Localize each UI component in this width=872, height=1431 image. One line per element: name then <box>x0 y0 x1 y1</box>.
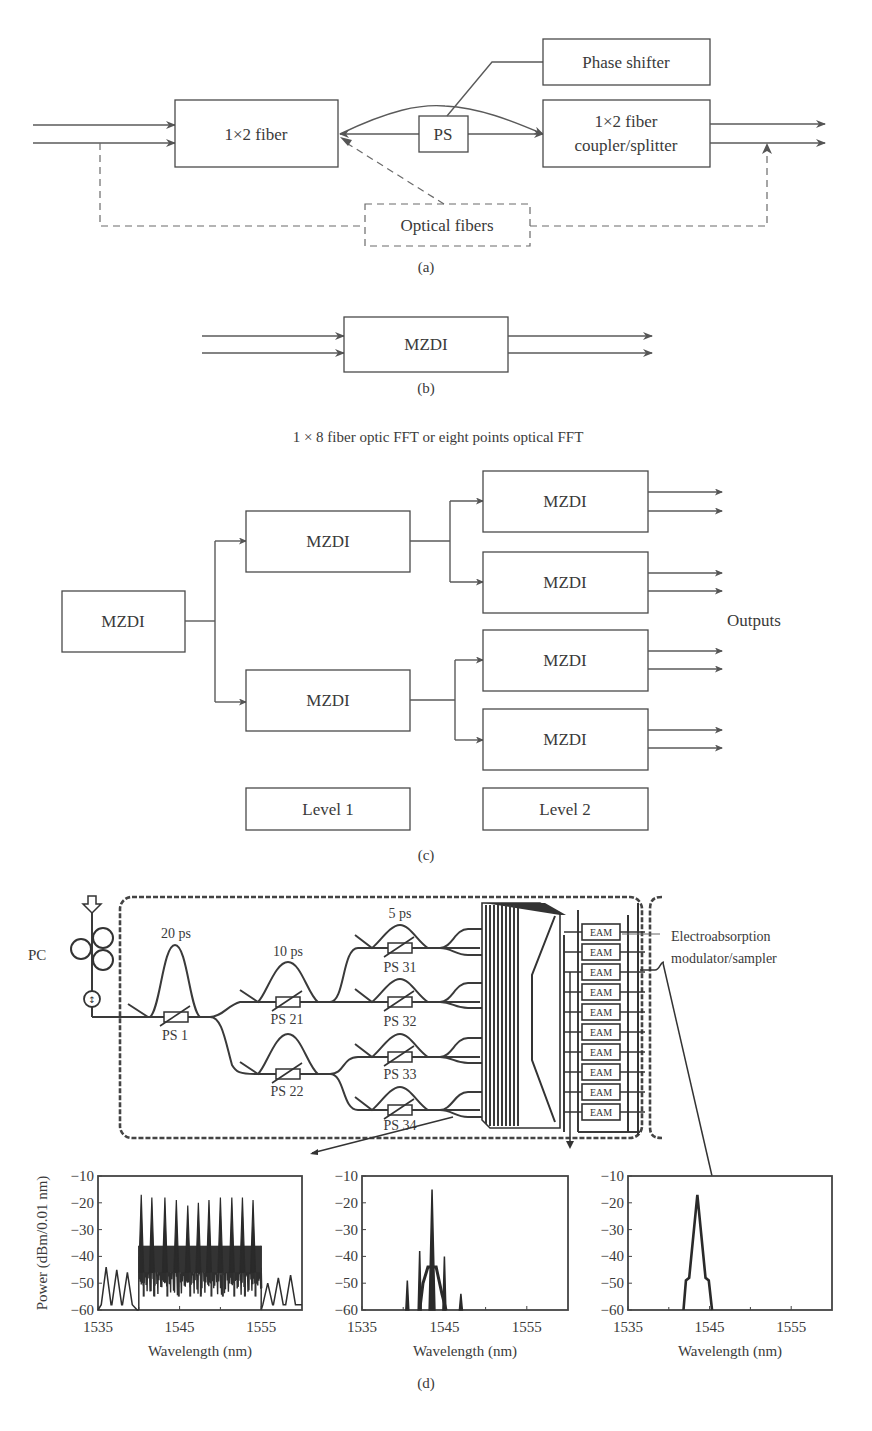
eam-bracket <box>650 897 662 1138</box>
eam-label: EAM <box>590 947 612 958</box>
phase-shifter-label: Phase shifter <box>582 53 670 72</box>
panel-b: MZDI (b) <box>202 317 652 397</box>
y-tick-label: −30 <box>335 1222 358 1238</box>
mzdi-label: MZDI <box>404 335 448 354</box>
figure-canvas: 1×2 fiber PS Phase shifter 1×2 fiber cou… <box>0 0 872 1431</box>
y-tick-label: −50 <box>335 1275 358 1291</box>
eam-label: EAM <box>590 1087 612 1098</box>
outputs-label: Outputs <box>727 611 781 630</box>
ps-label: PS <box>434 125 453 144</box>
output-arrows <box>648 492 722 748</box>
pulse-label-5ps: 5 ps <box>389 906 412 921</box>
fft-title: 1 × 8 fiber optic FFT or eight points op… <box>293 429 584 445</box>
plot-frame <box>628 1176 832 1310</box>
eam-label: EAM <box>590 1007 612 1018</box>
level1-mzdi-label-1: MZDI <box>306 532 350 551</box>
caption-c: (c) <box>418 847 435 864</box>
ps33-label: PS 33 <box>383 1067 416 1082</box>
coupler-box <box>543 100 710 167</box>
ps32-label: PS 32 <box>383 1014 416 1029</box>
level1-mzdi-label-2: MZDI <box>306 691 350 710</box>
x-tick-label: 1555 <box>776 1319 806 1335</box>
y-tick-label: −40 <box>71 1248 94 1264</box>
sampler-hook <box>640 962 664 970</box>
y-tick-label: −20 <box>601 1195 624 1211</box>
y-tick-label: −30 <box>601 1222 624 1238</box>
y-tick-label: −20 <box>335 1195 358 1211</box>
ps1-label: PS 1 <box>162 1028 188 1043</box>
polarization-controller-icon: ↕ <box>71 896 200 1017</box>
y-tick-label: −60 <box>601 1302 624 1318</box>
x-tick-label: 1555 <box>246 1319 276 1335</box>
ps21-label: PS 21 <box>270 1012 303 1027</box>
eam-label: EAM <box>590 927 612 938</box>
pulse-label-10ps: 10 ps <box>273 944 303 959</box>
ps22-label: PS 22 <box>270 1084 303 1099</box>
x-tick-label: 1535 <box>83 1319 113 1335</box>
x-tick-label: 1545 <box>429 1319 459 1335</box>
x-axis-label: Wavelength (nm) <box>413 1343 517 1360</box>
y-axis-label: Power (dBm/0.01 nm) <box>34 1176 51 1311</box>
coupler-label-line1: 1×2 fiber <box>595 112 658 131</box>
x-tick-label: 1545 <box>695 1319 725 1335</box>
x-tick-label: 1535 <box>613 1319 643 1335</box>
x-axis-label: Wavelength (nm) <box>678 1343 782 1360</box>
y-tick-label: −20 <box>71 1195 94 1211</box>
level2-label: Level 2 <box>539 800 590 819</box>
y-tick-label: −40 <box>335 1248 358 1264</box>
x-tick-label: 1545 <box>165 1319 195 1335</box>
root-mzdi-label: MZDI <box>101 612 145 631</box>
caption-a: (a) <box>418 259 435 276</box>
spectrum-plots: −10−20−30−40−50−60153515451555Wavelength… <box>71 1168 832 1360</box>
spectrum-plot-3: −10−20−30−40−50−60153515451555Wavelength… <box>601 1168 832 1360</box>
panel-a: 1×2 fiber PS Phase shifter 1×2 fiber cou… <box>33 39 825 276</box>
panel-c: 1 × 8 fiber optic FFT or eight points op… <box>62 429 781 864</box>
splitter-label: 1×2 fiber <box>225 125 288 144</box>
spectrum-plot-2: −10−20−30−40−50−60153515451555Wavelength… <box>335 1168 568 1360</box>
stage3-interferometers <box>355 925 482 1119</box>
optical-fibers-label: Optical fibers <box>401 216 494 235</box>
x-tick-label: 1555 <box>512 1319 542 1335</box>
eam-label: EAM <box>590 967 612 978</box>
svg-text:↕: ↕ <box>88 995 96 1005</box>
y-tick-label: −60 <box>335 1302 358 1318</box>
plot-frame <box>362 1176 568 1310</box>
y-tick-label: −10 <box>601 1168 624 1184</box>
y-tick-label: −40 <box>601 1248 624 1264</box>
y-tick-label: −50 <box>601 1275 624 1291</box>
caption-d: (d) <box>417 1375 435 1392</box>
caption-b: (b) <box>417 380 435 397</box>
stage1-interferometer <box>128 945 320 1074</box>
level2-mzdi-label-4: MZDI <box>543 730 587 749</box>
y-tick-label: −30 <box>71 1222 94 1238</box>
eam-label: EAM <box>590 1047 612 1058</box>
x-tick-label: 1535 <box>347 1319 377 1335</box>
panel-d-circuit: PC ↕ 20 ps PS 1 <box>28 896 777 1176</box>
eam-label: EAM <box>590 1107 612 1118</box>
coupler-label-line2: coupler/splitter <box>575 136 678 155</box>
pc-label: PC <box>28 947 46 963</box>
y-tick-label: −10 <box>335 1168 358 1184</box>
eam-annotation-line1: Electroabsorption <box>671 929 771 944</box>
eam-label: EAM <box>590 987 612 998</box>
eam-array: EAMEAMEAMEAMEAMEAMEAMEAMEAMEAM <box>564 903 645 1135</box>
eam-label: EAM <box>590 1067 612 1078</box>
level2-mzdi-label-2: MZDI <box>543 573 587 592</box>
level2-mzdi-label-3: MZDI <box>543 651 587 670</box>
level1-label: Level 1 <box>302 800 353 819</box>
fiber-arrowhead-right <box>762 143 772 154</box>
y-tick-label: −50 <box>71 1275 94 1291</box>
y-tick-label: −60 <box>71 1302 94 1318</box>
pulse-label-20ps: 20 ps <box>161 926 191 941</box>
x-axis-label: Wavelength (nm) <box>148 1343 252 1360</box>
level2-mzdi-label-1: MZDI <box>543 492 587 511</box>
eam-annotation-line2: modulator/sampler <box>671 951 777 966</box>
y-tick-label: −10 <box>71 1168 94 1184</box>
eam-label: EAM <box>590 1027 612 1038</box>
ps31-label: PS 31 <box>383 960 416 975</box>
spectrum-plot-1: −10−20−30−40−50−60153515451555Wavelength… <box>71 1168 302 1360</box>
pointer-to-plot3 <box>663 963 712 1176</box>
